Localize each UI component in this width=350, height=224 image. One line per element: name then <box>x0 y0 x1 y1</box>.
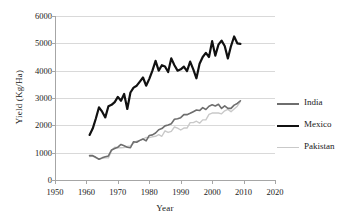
series-lines <box>55 16 275 180</box>
legend-label: Mexico <box>304 119 332 129</box>
x-tick-label: 1970 <box>103 188 133 197</box>
y-tick-label: 6000 <box>20 12 52 21</box>
legend-label: Pakistan <box>304 141 335 151</box>
y-tick-label: 3000 <box>20 94 52 103</box>
y-tick-mark <box>51 16 55 17</box>
x-tick-label: 1950 <box>40 188 70 197</box>
y-tick-label: 5000 <box>20 39 52 48</box>
legend-item-pakistan[interactable]: Pakistan <box>277 140 350 162</box>
x-tick-label: 2020 <box>260 188 290 197</box>
x-tick-label: 1960 <box>71 188 101 197</box>
legend-swatch-mexico <box>277 125 299 127</box>
x-tick-mark <box>244 181 245 184</box>
x-tick-label: 1990 <box>166 188 196 197</box>
y-tick-label: 4000 <box>20 67 52 76</box>
x-tick-label: 2010 <box>229 188 259 197</box>
x-tick-mark <box>149 181 150 184</box>
series-line-mexico <box>90 37 241 135</box>
y-tick-label: 2000 <box>20 121 52 130</box>
series-line-india <box>90 101 241 159</box>
legend-label: India <box>304 97 323 107</box>
series-line-pakistan <box>90 101 241 159</box>
x-tick-mark <box>86 181 87 184</box>
plot-area <box>55 16 275 180</box>
chart-container: Yield (Kg/Ha) Year 010002000300040005000… <box>0 0 350 224</box>
x-tick-mark <box>118 181 119 184</box>
x-tick-label: 2000 <box>197 188 227 197</box>
y-tick-mark <box>51 98 55 99</box>
x-axis-title: Year <box>55 203 275 213</box>
x-tick-label: 1980 <box>134 188 164 197</box>
legend-swatch-india <box>277 103 299 105</box>
y-tick-mark <box>51 125 55 126</box>
y-tick-mark <box>51 71 55 72</box>
legend: IndiaMexicoPakistan <box>277 96 350 162</box>
legend-swatch-pakistan <box>277 147 299 148</box>
x-tick-mark <box>55 181 56 184</box>
x-axis-tick-labels: 19501960197019801990200020102020 <box>0 184 350 198</box>
legend-item-india[interactable]: India <box>277 96 350 118</box>
x-tick-mark <box>275 181 276 184</box>
x-axis-line <box>55 180 276 181</box>
y-tick-mark <box>51 153 55 154</box>
y-tick-mark <box>51 43 55 44</box>
x-tick-mark <box>181 181 182 184</box>
x-tick-mark <box>212 181 213 184</box>
y-tick-label: 1000 <box>20 149 52 158</box>
legend-item-mexico[interactable]: Mexico <box>277 118 350 140</box>
